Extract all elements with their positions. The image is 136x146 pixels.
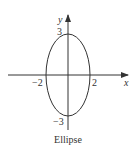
tick-x-pos: 2 xyxy=(92,77,97,88)
tick-y-neg: −3 xyxy=(53,116,64,127)
x-axis-label: x xyxy=(123,77,129,88)
tick-x-neg: −2 xyxy=(32,77,43,88)
ellipse-diagram: y x 3 −3 −2 2 Ellipse xyxy=(0,0,136,146)
y-axis-label: y xyxy=(57,14,63,25)
figure-caption: Ellipse xyxy=(54,134,82,145)
tick-y-pos: 3 xyxy=(57,26,62,37)
